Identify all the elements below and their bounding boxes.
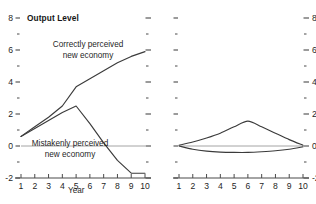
y-tick-label: 4 <box>312 77 316 87</box>
y-tick-label: 2 <box>312 109 316 119</box>
series-line-2 <box>179 146 303 152</box>
x-tick-label: 1 <box>177 181 182 191</box>
figure-two-panel-chart: 86420-212345678910 Output Level Correctl… <box>0 0 316 204</box>
y-tick-label: 6 <box>8 45 13 55</box>
y-tick-label: 8 <box>312 13 316 23</box>
x-tick-label: 8 <box>273 181 278 191</box>
annotation-line-1: Mistakenly perceived <box>32 139 108 148</box>
output-level-plot: 86420-212345678910 <box>0 0 158 204</box>
series-line-1 <box>179 121 303 145</box>
x-tick-label: 7 <box>101 181 106 191</box>
annotation-line-2: new economy <box>40 51 136 62</box>
annotation-line-2: new economy <box>18 150 122 161</box>
panel-inflation: 86420-212345678910 Inflation Mistakenly … <box>158 0 316 204</box>
x-tick-label: 6 <box>245 181 250 191</box>
x-tick-label: 4 <box>218 181 223 191</box>
x-tick-label: 3 <box>46 181 51 191</box>
y-tick-label: 2 <box>8 109 13 119</box>
x-tick-label: 2 <box>190 181 195 191</box>
x-axis-label-output: Year <box>68 186 85 195</box>
x-tick-label: 9 <box>287 181 292 191</box>
panel-title-output-level: Output Level <box>27 13 79 23</box>
x-tick-label: 4 <box>60 181 65 191</box>
y-tick-label: 0 <box>312 141 316 151</box>
y-tick-label: -2 <box>312 173 316 183</box>
annotation-mistakenly-perceived-output: Mistakenly perceived new economy <box>18 139 122 160</box>
x-tick-label: 3 <box>204 181 209 191</box>
inflation-plot: 86420-212345678910 <box>158 0 316 204</box>
x-tick-label: 6 <box>87 181 92 191</box>
x-tick-label: 2 <box>32 181 37 191</box>
y-tick-label: 4 <box>8 77 13 87</box>
x-tick-label: 7 <box>259 181 264 191</box>
y-tick-label: -2 <box>5 173 13 183</box>
x-tick-label: 10 <box>140 181 150 191</box>
y-tick-label: 0 <box>8 141 13 151</box>
data-series-group <box>179 121 303 152</box>
axis-group: 86420-212345678910 <box>173 13 316 191</box>
annotation-line-1: Correctly perceived <box>53 40 124 49</box>
annotation-correctly-perceived-output: Correctly perceived new economy <box>40 40 136 61</box>
panel-output-level: 86420-212345678910 Output Level Correctl… <box>0 0 158 204</box>
x-tick-label: 1 <box>19 181 24 191</box>
y-tick-label: 6 <box>312 45 316 55</box>
x-tick-label: 9 <box>129 181 134 191</box>
x-tick-label: 5 <box>232 181 237 191</box>
y-tick-label: 8 <box>8 13 13 23</box>
x-tick-label: 10 <box>298 181 308 191</box>
series-line-1 <box>21 52 145 137</box>
x-tick-label: 8 <box>115 181 120 191</box>
